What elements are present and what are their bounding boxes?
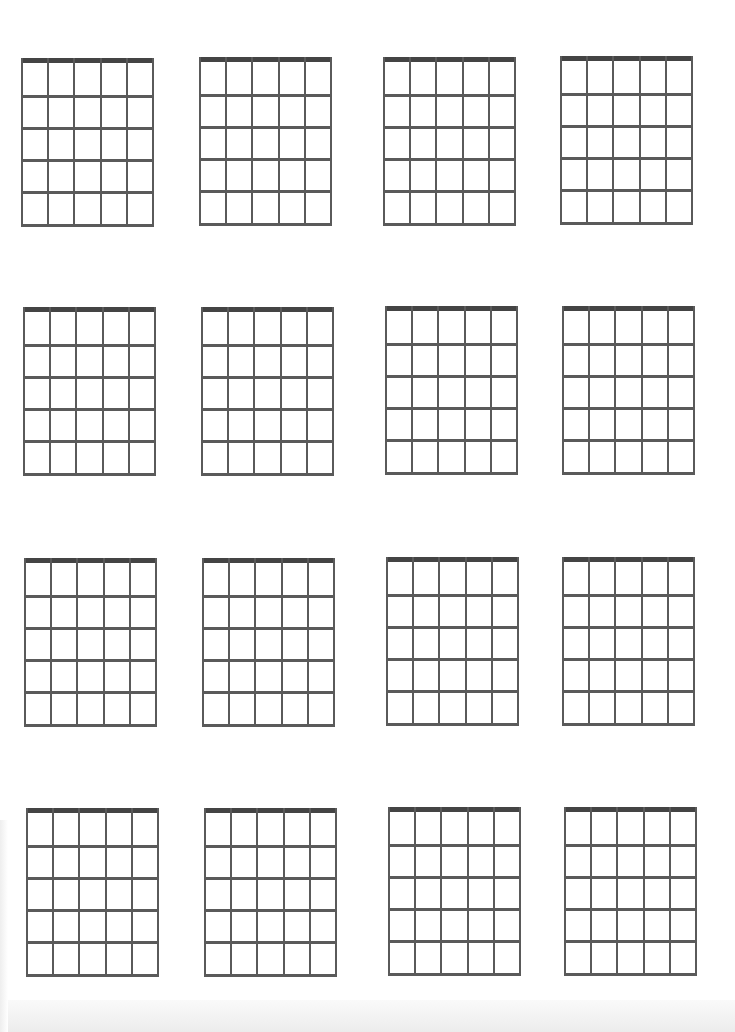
fret-line — [562, 626, 695, 629]
string-line — [691, 56, 693, 225]
string-line — [435, 57, 437, 226]
string-line — [154, 307, 156, 476]
nut — [199, 57, 332, 62]
fret-line — [21, 95, 154, 98]
string-line — [204, 808, 206, 977]
fret-line — [23, 473, 156, 476]
fret-line — [199, 190, 332, 193]
string-line — [412, 557, 414, 726]
string-line — [488, 57, 490, 226]
string-line — [78, 808, 80, 977]
chord-diagram-11 — [386, 557, 519, 726]
chord-diagram-12 — [562, 557, 695, 726]
page-left-shadow — [0, 820, 8, 1032]
string-line — [126, 58, 128, 227]
fret-line — [24, 595, 157, 598]
string-line — [411, 306, 413, 475]
string-line — [155, 558, 157, 727]
string-line — [467, 807, 469, 976]
fret-line — [385, 375, 518, 378]
nut — [24, 558, 157, 563]
fret-line — [388, 973, 521, 976]
fret-line — [26, 974, 159, 977]
string-line — [52, 808, 54, 977]
string-line — [560, 56, 562, 225]
string-line — [102, 307, 104, 476]
chord-diagram-1 — [21, 58, 154, 227]
nut — [564, 807, 697, 812]
chord-diagram-6 — [201, 307, 334, 476]
string-line — [128, 307, 130, 476]
fret-line — [26, 941, 159, 944]
fret-line — [383, 158, 516, 161]
fret-line — [386, 723, 519, 726]
fret-line — [23, 408, 156, 411]
fret-line — [199, 94, 332, 97]
string-line — [76, 558, 78, 727]
string-line — [614, 306, 616, 475]
nut — [201, 307, 334, 312]
fret-line — [201, 473, 334, 476]
fret-line — [202, 691, 335, 694]
string-line — [24, 558, 26, 727]
fret-line — [388, 908, 521, 911]
nut — [202, 558, 335, 563]
chord-diagram-5 — [23, 307, 156, 476]
fret-line — [386, 690, 519, 693]
fret-line — [204, 941, 337, 944]
nut — [383, 57, 516, 62]
chord-diagram-15 — [388, 807, 521, 976]
fret-line — [24, 659, 157, 662]
string-line — [414, 807, 416, 976]
string-line — [586, 56, 588, 225]
fret-line — [202, 659, 335, 662]
fret-line — [21, 191, 154, 194]
string-line — [519, 807, 521, 976]
chord-diagram-4 — [560, 56, 693, 225]
fret-line — [202, 724, 335, 727]
chord-diagram-2 — [199, 57, 332, 226]
page-bottom-shadow — [0, 1000, 735, 1032]
chord-diagram-13 — [26, 808, 159, 977]
string-line — [383, 57, 385, 226]
string-line — [695, 807, 697, 976]
string-line — [614, 557, 616, 726]
string-line — [693, 306, 695, 475]
string-line — [490, 306, 492, 475]
fret-line — [386, 594, 519, 597]
string-line — [385, 306, 387, 475]
string-line — [47, 58, 49, 227]
fret-line — [562, 439, 695, 442]
nut — [21, 58, 154, 63]
fret-line — [202, 595, 335, 598]
string-line — [254, 558, 256, 727]
string-line — [309, 808, 311, 977]
string-line — [588, 306, 590, 475]
string-line — [49, 307, 51, 476]
string-line — [639, 56, 641, 225]
string-line — [669, 807, 671, 976]
fret-line — [24, 691, 157, 694]
string-line — [21, 58, 23, 227]
fret-line — [560, 189, 693, 192]
string-line — [590, 807, 592, 976]
string-line — [562, 306, 564, 475]
string-line — [23, 307, 25, 476]
string-line — [202, 558, 204, 727]
chord-diagram-14 — [204, 808, 337, 977]
fret-line — [564, 940, 697, 943]
fret-line — [26, 877, 159, 880]
string-line — [386, 557, 388, 726]
string-line — [75, 307, 77, 476]
fret-line — [204, 909, 337, 912]
fret-line — [24, 724, 157, 727]
nut — [562, 557, 695, 562]
string-line — [26, 808, 28, 977]
fret-line — [26, 909, 159, 912]
fret-line — [383, 126, 516, 129]
string-line — [493, 807, 495, 976]
string-line — [409, 57, 411, 226]
chord-diagram-8 — [562, 306, 695, 475]
fret-line — [562, 375, 695, 378]
string-line — [304, 57, 306, 226]
